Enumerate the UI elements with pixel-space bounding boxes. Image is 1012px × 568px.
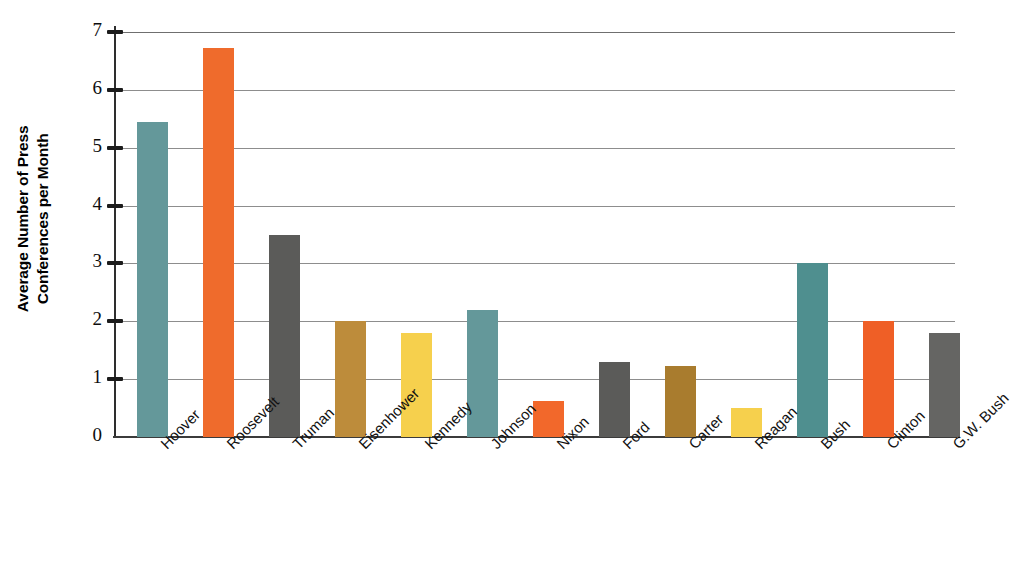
y-tick-mark-2 [107, 319, 123, 323]
bar-johnson [467, 310, 498, 437]
y-axis-title-line-1: Average Number of Press [12, 125, 32, 312]
x-axis-tick-labels: HooverRooseveltTrumanEisenhowerKennedyJo… [115, 440, 960, 568]
y-tick-mark-7 [107, 30, 123, 34]
bar-g-w-bush [929, 333, 960, 437]
y-axis-tick-labels: 01234567 [56, 0, 102, 460]
y-tick-label-2: 2 [66, 308, 102, 330]
y-axis-title: Average Number of Press Conferences per … [0, 0, 64, 437]
y-tick-mark-3 [107, 261, 123, 265]
bar-clinton [863, 321, 894, 437]
y-tick-mark-1 [107, 377, 123, 381]
bar-carter [665, 366, 696, 437]
y-tick-label-0: 0 [66, 424, 102, 446]
y-tick-mark-5 [107, 146, 123, 150]
y-tick-label-6: 6 [66, 77, 102, 99]
bar-kennedy [401, 333, 432, 437]
y-axis-title-line-2: Conferences per Month [32, 125, 52, 312]
bar-nixon [533, 401, 564, 437]
bar-hoover [137, 122, 168, 437]
y-tick-label-7: 7 [66, 19, 102, 41]
y-tick-label-5: 5 [66, 135, 102, 157]
y-tick-mark-4 [107, 204, 123, 208]
bar-eisenhower [335, 321, 366, 437]
bar-bush [797, 263, 828, 437]
y-tick-mark-6 [107, 88, 123, 92]
y-tick-label-1: 1 [66, 366, 102, 388]
bars-layer [115, 32, 955, 437]
y-tick-label-4: 4 [66, 193, 102, 215]
bar-roosevelt [203, 48, 234, 437]
y-tick-label-3: 3 [66, 250, 102, 272]
bar-ford [599, 362, 630, 437]
